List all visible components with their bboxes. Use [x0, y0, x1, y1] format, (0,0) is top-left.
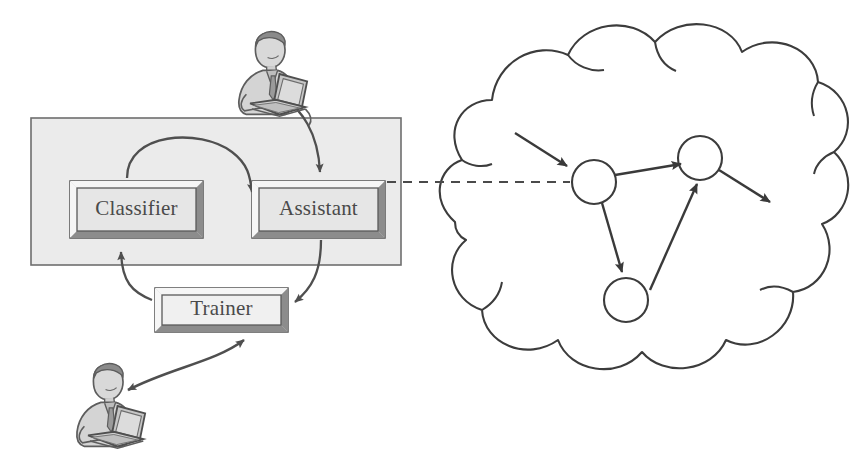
trainer-label: Trainer: [190, 296, 252, 320]
diagram-svg: Classifier Assistant Trainer: [0, 0, 866, 451]
cloud-node-1: [572, 160, 616, 204]
assistant-label: Assistant: [279, 196, 358, 220]
classifier-label: Classifier: [95, 196, 177, 220]
arrow-user-bottom-to-trainer: [128, 340, 244, 390]
cloud-node-2: [678, 136, 722, 180]
network-cloud: [440, 24, 849, 369]
cloud-node-3: [604, 278, 648, 322]
user-bottom-figure: [77, 364, 145, 449]
trainer-box[interactable]: Trainer: [155, 288, 288, 332]
assistant-box[interactable]: Assistant: [252, 181, 385, 238]
classifier-box[interactable]: Classifier: [70, 181, 203, 238]
diagram-canvas: Classifier Assistant Trainer: [0, 0, 866, 451]
